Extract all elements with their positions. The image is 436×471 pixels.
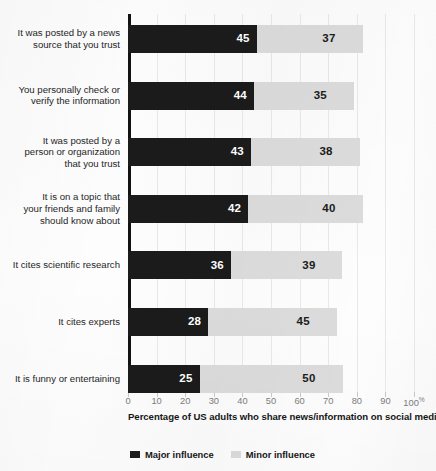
bar-value-minor: 39	[302, 260, 335, 272]
bar-value-minor: 37	[322, 33, 355, 45]
legend-swatch-minor-icon	[231, 451, 241, 458]
x-tick-label: 60	[294, 396, 304, 406]
bar-row[interactable]: 3639	[128, 251, 414, 279]
x-tick-label: 70	[323, 396, 333, 406]
legend-item-major[interactable]: Major influence	[130, 449, 214, 460]
bar-segment-minor[interactable]: 35	[254, 82, 354, 110]
x-tick-label: 30	[209, 396, 219, 406]
bar-segment-major[interactable]: 44	[128, 82, 254, 110]
bar-value-minor: 50	[302, 373, 335, 385]
bar-segment-minor[interactable]: 39	[231, 251, 343, 279]
legend-swatch-major-icon	[130, 451, 140, 458]
bar-value-minor: 45	[297, 316, 330, 328]
plot-area: 4537443543384240363928452550	[128, 14, 414, 392]
bar-value-minor: 35	[314, 90, 347, 102]
legend-label-major: Major influence	[145, 449, 214, 460]
bar-value-major: 42	[228, 203, 241, 215]
bar-value-major: 44	[234, 90, 247, 102]
category-label: It cites experts	[6, 316, 120, 328]
x-tick-label: 80	[352, 396, 362, 406]
category-label: It was posted by a person or organizatio…	[6, 135, 120, 170]
category-label: It is on a topic that your friends and f…	[6, 191, 120, 226]
bar-segment-minor[interactable]: 50	[200, 365, 343, 393]
bar-value-major: 28	[188, 316, 201, 328]
bar-segment-major[interactable]: 28	[128, 308, 208, 336]
bar-segment-major[interactable]: 25	[128, 365, 200, 393]
bar-segment-minor[interactable]: 40	[248, 195, 362, 223]
stacked-bar-chart: 4537443543384240363928452550 It was post…	[0, 0, 436, 471]
bar-segment-major[interactable]: 36	[128, 251, 231, 279]
bar-value-major: 43	[231, 146, 244, 158]
category-label: You personally check or verify the infor…	[6, 84, 120, 108]
bar-value-minor: 40	[322, 203, 355, 215]
x-tick-label: 20	[180, 396, 190, 406]
bar-value-major: 36	[211, 260, 224, 272]
category-label: It was posted by a news source that you …	[6, 27, 120, 51]
x-tick-label: 100%	[403, 396, 424, 408]
bar-row[interactable]: 2845	[128, 308, 414, 336]
chart-legend: Major influence Minor influence	[130, 449, 315, 460]
bar-row[interactable]: 4537	[128, 25, 414, 53]
x-tick-label: 40	[237, 396, 247, 406]
x-tick-label: 50	[266, 396, 276, 406]
bar-segment-major[interactable]: 45	[128, 25, 257, 53]
bar-row[interactable]: 4338	[128, 138, 414, 166]
x-tick-label: 90	[380, 396, 390, 406]
bar-segment-major[interactable]: 42	[128, 195, 248, 223]
bar-segment-major[interactable]: 43	[128, 138, 251, 166]
legend-label-minor: Minor influence	[246, 449, 315, 460]
x-tick-label: 10	[151, 396, 161, 406]
bar-segment-minor[interactable]: 37	[257, 25, 363, 53]
category-label: It cites scientific research	[6, 259, 120, 271]
gridline	[414, 14, 415, 392]
bar-value-major: 45	[236, 33, 249, 45]
bar-value-minor: 38	[319, 146, 352, 158]
category-label: It is funny or entertaining	[6, 373, 120, 385]
bar-row[interactable]: 4435	[128, 82, 414, 110]
bar-segment-minor[interactable]: 38	[251, 138, 360, 166]
x-axis-title: Percentage of US adults who share news/i…	[128, 411, 428, 422]
bar-row[interactable]: 2550	[128, 365, 414, 393]
legend-item-minor[interactable]: Minor influence	[231, 449, 315, 460]
x-tick-label: 0	[125, 396, 130, 406]
bar-segment-minor[interactable]: 45	[208, 308, 337, 336]
bar-row[interactable]: 4240	[128, 195, 414, 223]
bar-value-major: 25	[179, 373, 192, 385]
